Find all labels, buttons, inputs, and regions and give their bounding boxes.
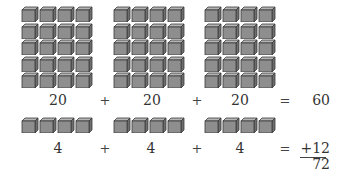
cube-icon	[258, 39, 276, 55]
label-20-a: 20	[43, 92, 73, 108]
cube-icon	[258, 117, 276, 133]
cube-icon	[113, 23, 131, 39]
cube-icon	[75, 56, 93, 72]
cube-icon	[75, 39, 93, 55]
cube-icon	[222, 39, 240, 55]
cube-icon	[113, 6, 131, 22]
cube-icon	[21, 72, 39, 88]
cube-icon	[75, 6, 93, 22]
cube-icon	[39, 117, 57, 133]
plus-operator: +	[190, 93, 204, 108]
cube-icon	[57, 23, 75, 39]
cube-icon	[149, 56, 167, 72]
cube-icon	[21, 39, 39, 55]
plus-operator: +	[98, 93, 112, 108]
total-72: 72	[296, 156, 330, 172]
cube-icon	[131, 6, 149, 22]
cube-icon	[149, 23, 167, 39]
cube-icon	[167, 6, 185, 22]
equals-operator: =	[278, 93, 292, 108]
result-60: 60	[300, 92, 330, 108]
cube-icon	[39, 39, 57, 55]
cube-icon	[21, 23, 39, 39]
cube-icon	[57, 72, 75, 88]
cube-icon	[149, 39, 167, 55]
cube-icon	[167, 117, 185, 133]
cube-icon	[39, 6, 57, 22]
label-4-b: 4	[136, 140, 166, 156]
cube-icon	[240, 39, 258, 55]
cube-icon	[113, 72, 131, 88]
equals-operator: =	[278, 141, 292, 156]
cube-icon	[21, 117, 39, 133]
cube-icon	[131, 39, 149, 55]
cube-icon	[222, 72, 240, 88]
plus-operator: +	[98, 141, 112, 156]
cube-icon	[113, 39, 131, 55]
cube-icon	[39, 72, 57, 88]
cube-icon	[149, 72, 167, 88]
cube-row-4-b	[113, 117, 185, 134]
cube-group-20-a	[21, 6, 93, 89]
cube-icon	[39, 56, 57, 72]
cube-icon	[222, 6, 240, 22]
cube-icon	[57, 56, 75, 72]
cube-icon	[204, 72, 222, 88]
cube-icon	[204, 56, 222, 72]
cube-group-20-b	[113, 6, 185, 89]
cube-icon	[113, 117, 131, 133]
cube-row-4-c	[204, 117, 276, 134]
cube-icon	[39, 23, 57, 39]
label-20-c: 20	[225, 92, 255, 108]
label-4-a: 4	[43, 140, 73, 156]
cube-icon	[258, 6, 276, 22]
cube-icon	[131, 56, 149, 72]
cube-icon	[204, 39, 222, 55]
cube-icon	[258, 56, 276, 72]
cube-icon	[167, 72, 185, 88]
cube-icon	[57, 117, 75, 133]
cube-icon	[204, 6, 222, 22]
cube-icon	[258, 72, 276, 88]
cube-icon	[240, 117, 258, 133]
cube-icon	[57, 6, 75, 22]
cube-group-20-c	[204, 6, 276, 89]
cube-icon	[57, 39, 75, 55]
cube-icon	[131, 72, 149, 88]
cube-icon	[21, 56, 39, 72]
cube-icon	[75, 23, 93, 39]
label-20-b: 20	[137, 92, 167, 108]
cube-icon	[204, 117, 222, 133]
plus-operator: +	[190, 141, 204, 156]
cube-icon	[222, 23, 240, 39]
cube-icon	[149, 6, 167, 22]
label-4-c: 4	[225, 140, 255, 156]
cube-icon	[222, 117, 240, 133]
cube-icon	[75, 72, 93, 88]
cube-icon	[167, 23, 185, 39]
cube-icon	[149, 117, 167, 133]
addend-12: +12	[296, 140, 330, 156]
cube-icon	[167, 39, 185, 55]
cube-icon	[240, 72, 258, 88]
cube-icon	[240, 23, 258, 39]
cube-icon	[222, 56, 240, 72]
cube-icon	[75, 117, 93, 133]
cube-icon	[204, 23, 222, 39]
cube-icon	[131, 117, 149, 133]
cube-icon	[240, 6, 258, 22]
cube-icon	[167, 56, 185, 72]
cube-icon	[258, 23, 276, 39]
cube-row-4-a	[21, 117, 93, 134]
cube-icon	[21, 6, 39, 22]
cube-icon	[240, 56, 258, 72]
cube-icon	[131, 23, 149, 39]
cube-icon	[113, 56, 131, 72]
